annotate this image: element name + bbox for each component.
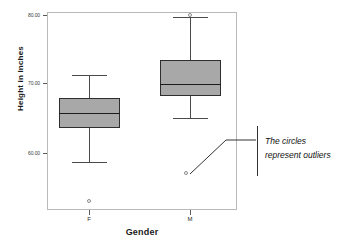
outlier-leader-line — [0, 0, 359, 247]
annotation-text-line-1: The circles — [265, 135, 306, 147]
annotation-text-line-2: represent outliers — [265, 149, 331, 161]
annotation-bracket — [257, 126, 258, 176]
boxplot-figure: Height in Inches Gender 80.00 70.00 60.0… — [0, 0, 359, 247]
